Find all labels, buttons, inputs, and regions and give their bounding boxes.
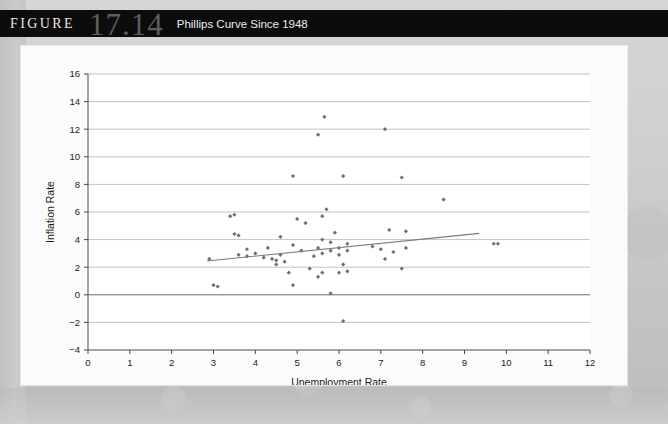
page-background: FIGURE 17.14 Phillips Curve Since 1948 −… [0, 0, 668, 424]
x-tick-label: 0 [85, 357, 90, 368]
x-tick-label: 4 [253, 357, 258, 368]
page-bottom-band [0, 388, 668, 424]
x-tick-label: 10 [501, 357, 512, 368]
y-tick-label: 12 [69, 124, 80, 135]
x-tick-label: 12 [585, 357, 596, 368]
figure-title-bar: FIGURE 17.14 Phillips Curve Since 1948 [0, 10, 668, 37]
x-tick-label: 3 [211, 357, 216, 368]
y-tick-label: 14 [69, 96, 80, 107]
x-tick-label: 5 [295, 357, 300, 368]
y-tick-label: 0 [75, 289, 80, 300]
y-tick-label: 6 [75, 206, 80, 217]
x-tick-label: 11 [543, 357, 553, 368]
y-tick-label: 2 [75, 262, 80, 273]
y-tick-label: −4 [69, 344, 80, 355]
x-tick-label: 7 [378, 357, 383, 368]
x-tick-label: 8 [420, 357, 425, 368]
x-tick-label: 6 [336, 357, 341, 368]
plot-svg: −4−202468101214160123456789101112Unemplo… [21, 46, 627, 385]
y-tick-label: 10 [69, 151, 80, 162]
x-axis-title: Unemployment Rate [291, 376, 387, 385]
figure-number-label: 17.14 [89, 10, 164, 37]
x-tick-label: 9 [462, 357, 467, 368]
chart-card: −4−202468101214160123456789101112Unemplo… [21, 46, 627, 385]
x-tick-label: 1 [127, 357, 132, 368]
y-tick-label: 8 [75, 179, 80, 190]
y-axis-title: Inflation Rate [44, 181, 56, 243]
y-tick-label: 4 [75, 234, 80, 245]
y-tick-label: −2 [69, 317, 80, 328]
scatter-plot: −4−202468101214160123456789101112Unemplo… [21, 46, 627, 385]
y-tick-label: 16 [69, 68, 80, 79]
figure-caption-label: Phillips Curve Since 1948 [177, 18, 308, 30]
x-tick-label: 2 [169, 357, 174, 368]
figure-word-label: FIGURE [10, 16, 75, 32]
